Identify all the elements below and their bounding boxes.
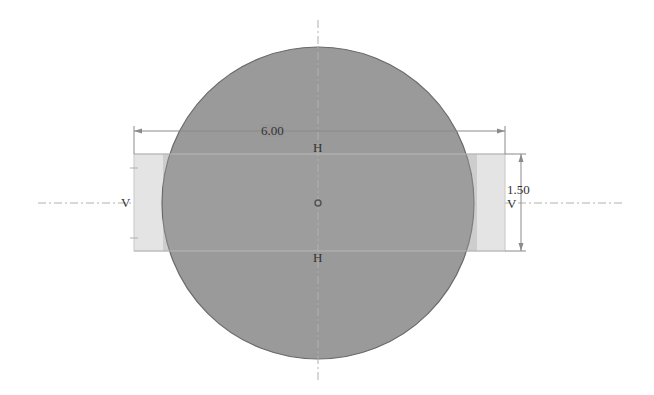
sketch-canvas[interactable] bbox=[0, 0, 654, 395]
width-dimension-arrow-left bbox=[134, 129, 142, 134]
horizontal-constraint-top[interactable]: H bbox=[313, 141, 322, 154]
height-dimension-arrow-bottom bbox=[519, 243, 524, 251]
rectangle-overlap-band bbox=[163, 154, 477, 251]
width-dimension-arrow-right bbox=[497, 129, 505, 134]
horizontal-constraint-bottom[interactable]: H bbox=[313, 251, 322, 264]
width-dimension-value[interactable]: 6.00 bbox=[261, 124, 284, 137]
height-dimension-arrow-top bbox=[519, 154, 524, 162]
height-dimension-value[interactable]: 1.50 bbox=[507, 183, 530, 196]
vertical-constraint-right[interactable]: V bbox=[507, 197, 516, 210]
vertical-constraint-left[interactable]: V bbox=[121, 196, 130, 209]
